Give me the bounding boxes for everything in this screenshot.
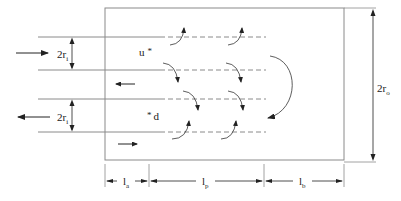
length-a-label: la bbox=[123, 175, 130, 190]
inlet-diameter-dimension-bottom: 2ri bbox=[57, 100, 75, 132]
svg-text:2ri: 2ri bbox=[57, 111, 68, 126]
outer-shell bbox=[105, 8, 344, 160]
length-b-label: lb bbox=[299, 175, 306, 190]
length-p-label: lp bbox=[202, 175, 209, 190]
length-dimensions: la lp lb bbox=[105, 164, 344, 190]
cross-flow-arrows bbox=[163, 28, 292, 139]
heat-exchanger-diagram: 2ri 2ri u* *d 2ro bbox=[0, 0, 401, 201]
downstream-label: *d bbox=[147, 110, 160, 122]
svg-text:2ro: 2ro bbox=[377, 82, 390, 97]
inlet-diameter-dimension-top: 2ri bbox=[57, 38, 75, 70]
upstream-label: u* bbox=[139, 46, 153, 58]
outer-diameter-dimension: 2ro bbox=[344, 8, 390, 162]
svg-text:2ri: 2ri bbox=[57, 48, 68, 63]
